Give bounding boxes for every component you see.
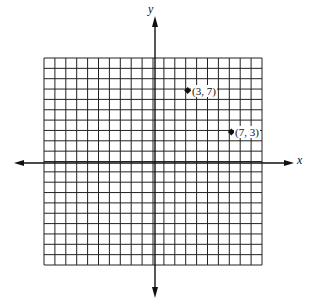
x-axis-right-arrow-icon bbox=[284, 160, 294, 166]
point-label-3-7: (3, 7) bbox=[191, 85, 217, 97]
point-label-7-3: (7, 3) bbox=[234, 126, 260, 138]
x-axis-label: x bbox=[297, 153, 302, 168]
y-axis-down-arrow-icon bbox=[152, 287, 158, 298]
axes bbox=[20, 22, 288, 292]
coordinate-plane bbox=[0, 0, 316, 308]
y-axis-label: y bbox=[148, 2, 153, 17]
y-axis-up-arrow-icon bbox=[152, 16, 158, 27]
grid bbox=[44, 58, 262, 265]
x-axis-left-arrow-icon bbox=[14, 160, 24, 166]
